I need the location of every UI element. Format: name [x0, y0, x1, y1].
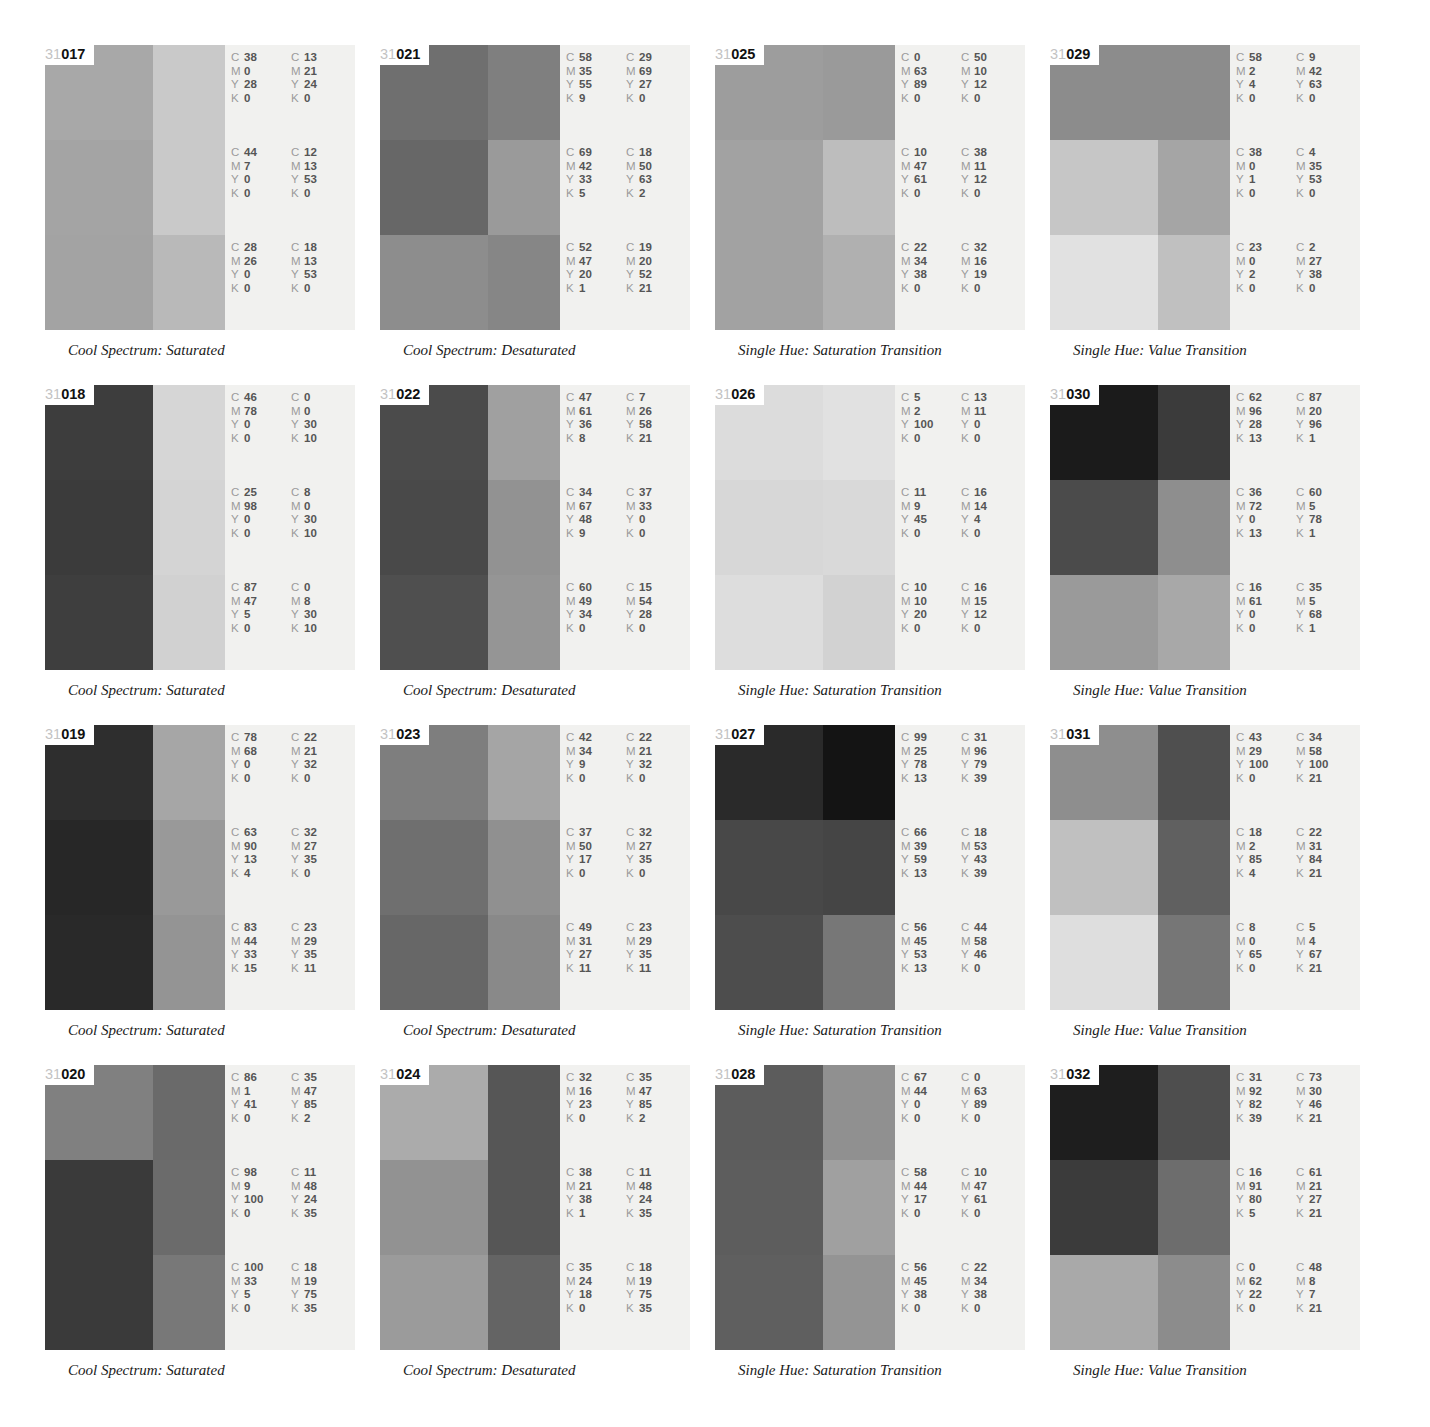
color-swatch[interactable]: [488, 480, 560, 575]
color-swatch[interactable]: [153, 140, 225, 235]
swatch-panel[interactable]: C78M68Y0K0C22M21Y32K0C63M90Y13K4C32M27Y3…: [45, 725, 380, 1065]
color-swatch[interactable]: [715, 140, 823, 235]
color-swatch[interactable]: [715, 1255, 823, 1350]
color-swatch[interactable]: [715, 235, 823, 330]
swatch-panel[interactable]: C47M61Y36K8C7M26Y58K21C34M67Y48K9C37M33Y…: [380, 385, 715, 725]
swatch-panel[interactable]: C62M96Y28K13C87M20Y96K1C36M72Y0K13C60M5Y…: [1050, 385, 1385, 725]
swatch-panel[interactable]: C67M44Y0K0C0M63Y89K0C58M44Y17K0C10M47Y61…: [715, 1065, 1050, 1405]
color-swatch[interactable]: [380, 235, 488, 330]
color-swatch[interactable]: [380, 480, 488, 575]
color-swatch[interactable]: [1158, 575, 1230, 670]
color-swatch[interactable]: [823, 235, 895, 330]
color-swatch[interactable]: [153, 915, 225, 1010]
swatch-panel[interactable]: C32M16Y23K0C35M47Y85K2C38M21Y38K1C11M48Y…: [380, 1065, 715, 1405]
color-swatch[interactable]: [1050, 1160, 1158, 1255]
color-swatch[interactable]: [715, 1160, 823, 1255]
color-swatch[interactable]: [45, 235, 153, 330]
color-swatch[interactable]: [488, 1160, 560, 1255]
color-swatch[interactable]: [380, 820, 488, 915]
color-swatch[interactable]: [715, 480, 823, 575]
color-swatch[interactable]: [488, 575, 560, 670]
color-swatch[interactable]: [1050, 915, 1158, 1010]
color-swatch[interactable]: [380, 1160, 488, 1255]
color-swatch[interactable]: [45, 140, 153, 235]
color-swatch[interactable]: [1158, 480, 1230, 575]
swatch-panel[interactable]: C99M25Y78K13C31M96Y79K39C66M39Y59K13C18M…: [715, 725, 1050, 1065]
color-swatch[interactable]: [488, 45, 560, 140]
color-swatch[interactable]: [823, 140, 895, 235]
color-swatch[interactable]: [1158, 725, 1230, 820]
cmyk-line-m: M10: [961, 65, 1021, 79]
color-swatch[interactable]: [823, 725, 895, 820]
color-swatch[interactable]: [380, 1255, 488, 1350]
color-swatch[interactable]: [488, 235, 560, 330]
swatch-panel[interactable]: C31M92Y82K39C73M30Y46K21C16M91Y80K5C61M2…: [1050, 1065, 1385, 1405]
color-swatch[interactable]: [153, 1160, 225, 1255]
color-swatch[interactable]: [823, 1255, 895, 1350]
color-swatch[interactable]: [823, 820, 895, 915]
color-swatch[interactable]: [45, 575, 153, 670]
color-swatch[interactable]: [45, 1255, 153, 1350]
swatch-panel[interactable]: C58M35Y55K9C29M69Y27K0C69M42Y33K5C18M50Y…: [380, 45, 715, 385]
color-swatch[interactable]: [153, 1065, 225, 1160]
color-swatch[interactable]: [153, 385, 225, 480]
color-swatch[interactable]: [823, 1065, 895, 1160]
color-swatch[interactable]: [1050, 140, 1158, 235]
color-swatch[interactable]: [380, 915, 488, 1010]
color-swatch[interactable]: [153, 820, 225, 915]
swatch-panel[interactable]: C86M1Y41K0C35M47Y85K2C98M9Y100K0C11M48Y2…: [45, 1065, 380, 1405]
color-swatch[interactable]: [1158, 385, 1230, 480]
color-swatch[interactable]: [45, 480, 153, 575]
color-swatch[interactable]: [488, 1255, 560, 1350]
color-swatch[interactable]: [823, 480, 895, 575]
swatch-panel[interactable]: C0M63Y89K0C50M10Y12K0C10M47Y61K0C38M11Y1…: [715, 45, 1050, 385]
color-swatch[interactable]: [153, 235, 225, 330]
swatch-panel[interactable]: C43M29Y100K0C34M58Y100K21C18M2Y85K4C22M3…: [1050, 725, 1385, 1065]
color-swatch[interactable]: [488, 915, 560, 1010]
color-swatch[interactable]: [153, 480, 225, 575]
color-swatch[interactable]: [715, 575, 823, 670]
swatch-panel[interactable]: C42M34Y9K0C22M21Y32K0C37M50Y17K0C32M27Y3…: [380, 725, 715, 1065]
color-swatch[interactable]: [1050, 1255, 1158, 1350]
color-swatch[interactable]: [1158, 1160, 1230, 1255]
color-swatch[interactable]: [45, 915, 153, 1010]
color-swatch[interactable]: [488, 725, 560, 820]
color-swatch[interactable]: [153, 45, 225, 140]
color-swatch[interactable]: [715, 915, 823, 1010]
color-swatch[interactable]: [1158, 235, 1230, 330]
cmyk-channel-label: C: [291, 826, 304, 840]
color-swatch[interactable]: [153, 725, 225, 820]
swatch-panel[interactable]: C46M78Y0K0C0M0Y30K10C25M98Y0K0C8M0Y30K10…: [45, 385, 380, 725]
color-swatch[interactable]: [153, 575, 225, 670]
color-swatch[interactable]: [488, 820, 560, 915]
swatch-panel[interactable]: C38M0Y28K0C13M21Y24K0C44M7Y0K0C12M13Y53K…: [45, 45, 380, 385]
cmyk-channel-value: 7: [244, 160, 251, 172]
color-swatch[interactable]: [1050, 575, 1158, 670]
swatch-panel[interactable]: C5M2Y100K0C13M11Y0K0C11M9Y45K0C16M14Y4K0…: [715, 385, 1050, 725]
color-swatch[interactable]: [823, 385, 895, 480]
color-swatch[interactable]: [1050, 480, 1158, 575]
color-swatch[interactable]: [45, 820, 153, 915]
color-swatch[interactable]: [1158, 45, 1230, 140]
color-swatch[interactable]: [153, 1255, 225, 1350]
color-swatch[interactable]: [823, 45, 895, 140]
color-swatch[interactable]: [380, 140, 488, 235]
color-swatch[interactable]: [1158, 1065, 1230, 1160]
color-swatch[interactable]: [45, 1160, 153, 1255]
color-swatch[interactable]: [1158, 820, 1230, 915]
color-swatch[interactable]: [1158, 1255, 1230, 1350]
color-swatch[interactable]: [1158, 915, 1230, 1010]
color-swatch[interactable]: [1158, 140, 1230, 235]
color-swatch[interactable]: [488, 1065, 560, 1160]
color-swatch[interactable]: [1050, 820, 1158, 915]
color-swatch[interactable]: [823, 575, 895, 670]
color-swatch[interactable]: [823, 915, 895, 1010]
color-swatch[interactable]: [715, 820, 823, 915]
color-swatch[interactable]: [1050, 235, 1158, 330]
color-swatch[interactable]: [380, 575, 488, 670]
swatch-panel[interactable]: C58M2Y4K0C9M42Y63K0C38M0Y1K0C4M35Y53K0C2…: [1050, 45, 1385, 385]
cmyk-channel-value: 8: [304, 595, 311, 607]
color-swatch[interactable]: [823, 1160, 895, 1255]
color-swatch[interactable]: [488, 140, 560, 235]
color-swatch[interactable]: [488, 385, 560, 480]
